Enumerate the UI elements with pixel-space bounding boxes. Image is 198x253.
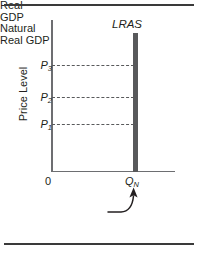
guide-line-p3 [52, 65, 134, 66]
lras-curve-label: LRAS [112, 19, 142, 31]
x-axis-line [51, 171, 175, 173]
y-tick-p3-subscript: 3 [48, 64, 52, 73]
guide-line-p1 [52, 124, 134, 125]
y-tick-p2-subscript: 2 [48, 96, 52, 105]
guide-line-p2 [52, 97, 134, 98]
annotation-line1: Natural [0, 22, 35, 34]
lras-figure: LRAS P3 P2 P1 Price Level 0 QN RealGDP N… [0, 0, 198, 253]
x-axis-title-line2: GDP [0, 11, 24, 23]
y-tick-p1-base: P [41, 118, 48, 130]
lras-curve [133, 33, 138, 172]
y-tick-p2-base: P [41, 91, 48, 103]
annotation-natural-real-gdp: NaturalReal GDP [0, 23, 64, 46]
top-divider-rule [4, 4, 194, 6]
annotation-arrow-icon [108, 186, 142, 220]
y-axis-title: Price Level [17, 57, 29, 131]
annotation-line2: Real GDP [0, 34, 50, 46]
origin-label: 0 [45, 176, 51, 187]
y-tick-label-p1: P1 [41, 119, 53, 130]
y-tick-p1-subscript: 1 [48, 123, 52, 132]
y-tick-label-p2: P2 [41, 92, 53, 103]
y-tick-label-p3: P3 [41, 60, 53, 71]
y-tick-p3-base: P [41, 59, 48, 71]
bottom-divider-rule [4, 243, 194, 245]
